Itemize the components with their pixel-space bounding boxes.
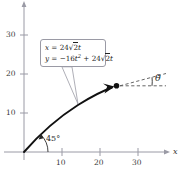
y-tick-label-30: 30 — [6, 30, 16, 39]
x-tick-label-20: 20 — [94, 158, 104, 167]
equation-y-lhs: y — [45, 54, 49, 63]
launch-angle-label: 45° — [46, 134, 60, 143]
x-tick-label-30: 30 — [132, 158, 142, 167]
theta-angle-label: θ — [155, 72, 161, 83]
equation-y-term1: −16 — [60, 54, 75, 63]
equation-x-var: t — [78, 43, 81, 52]
equation-y: y = −16t2 + 24√2t — [45, 53, 102, 64]
x-tick-label-10: 10 — [56, 158, 66, 167]
trajectory-curve — [24, 88, 112, 153]
equations-callout: x = 24√2t y = −16t2 + 24√2t — [40, 39, 106, 67]
equation-x-lhs: x — [45, 43, 49, 52]
y-axis-arrowhead — [22, 1, 27, 7]
equation-y-term1-exp: 2 — [78, 53, 81, 59]
x-axis-arrowhead — [164, 150, 170, 155]
figure-canvas: x = 24√2t y = −16t2 + 24√2t 30 20 10 10 … — [0, 0, 182, 175]
equation-y-term2-coeff: 24 — [92, 54, 101, 63]
plot-svg — [0, 0, 182, 175]
equation-y-term2-var: t — [110, 54, 113, 63]
y-tick-label-10: 10 — [6, 108, 16, 117]
callout-pointer-tail — [62, 67, 78, 104]
equation-y-plus: + — [83, 54, 89, 63]
equation-x: x = 24√2t — [45, 42, 102, 53]
curve-direction-arrowhead — [103, 83, 115, 93]
equation-x-coeff: 24 — [60, 43, 69, 52]
y-tick-label-20: 20 — [6, 69, 16, 78]
x-axis-label: x — [173, 147, 178, 156]
equation-y-equals: = — [51, 54, 57, 63]
equation-x-equals: = — [51, 43, 57, 52]
endpoint-dot — [114, 83, 120, 89]
